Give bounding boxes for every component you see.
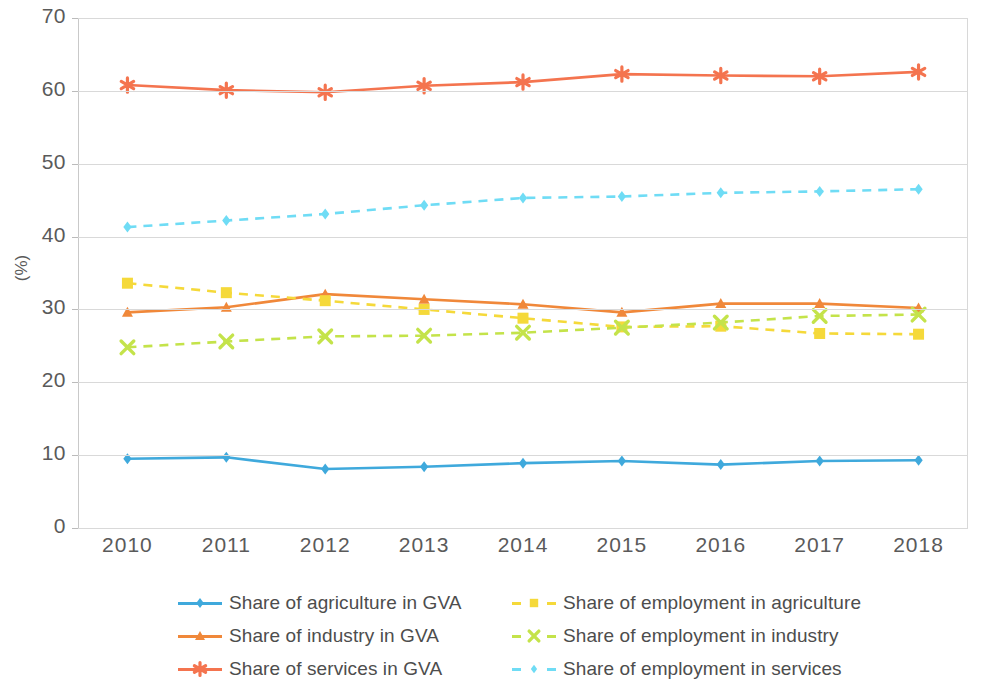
legend-column-left: Share of agriculture in GVAShare of indu… xyxy=(178,586,462,685)
series-2 xyxy=(121,65,924,100)
y-tick-mark xyxy=(72,528,78,529)
legend-column-right: Share of employment in agricultureShare … xyxy=(512,586,861,685)
gridline xyxy=(78,309,968,310)
legend-swatch xyxy=(178,626,222,646)
legend-swatch xyxy=(512,659,556,679)
legend-item[interactable]: Share of industry in GVA xyxy=(178,619,462,652)
legend-marker-icon xyxy=(523,593,545,613)
gridline xyxy=(78,164,968,165)
data-point xyxy=(519,458,527,469)
gridline xyxy=(78,91,968,92)
y-tick-label: 70 xyxy=(18,4,66,28)
legend-swatch xyxy=(512,593,556,613)
data-point xyxy=(221,287,232,298)
data-point xyxy=(814,328,825,339)
x-tick-label: 2015 xyxy=(577,533,667,557)
y-tick-mark xyxy=(72,164,78,165)
y-tick-label: 10 xyxy=(18,441,66,465)
x-tick-label: 2017 xyxy=(775,533,865,557)
gridline xyxy=(78,18,968,19)
y-tick-mark xyxy=(72,382,78,383)
chart-legend: Share of agriculture in GVAShare of indu… xyxy=(0,586,991,691)
legend-label: Share of services in GVA xyxy=(229,658,442,680)
legend-item[interactable]: Share of employment in services xyxy=(512,652,861,685)
legend-item[interactable]: Share of employment in industry xyxy=(512,619,861,652)
data-point xyxy=(518,313,529,324)
y-tick-mark xyxy=(72,309,78,310)
legend-item[interactable]: Share of services in GVA xyxy=(178,652,462,685)
legend-marker-icon xyxy=(189,593,211,613)
legend-item[interactable]: Share of employment in agriculture xyxy=(512,586,861,619)
y-tick-mark xyxy=(72,18,78,19)
data-point xyxy=(618,455,626,466)
data-point xyxy=(816,186,824,197)
legend-dash xyxy=(512,602,521,605)
y-tick-label: 20 xyxy=(18,368,66,392)
data-point xyxy=(420,461,428,472)
plot-area xyxy=(78,18,968,528)
y-tick-label: 0 xyxy=(18,514,66,538)
data-point xyxy=(420,200,428,211)
legend-dash xyxy=(512,668,521,671)
legend-marker-icon xyxy=(189,626,211,646)
data-point xyxy=(321,463,329,474)
y-tick-label: 50 xyxy=(18,150,66,174)
data-point xyxy=(122,278,133,289)
x-tick-label: 2014 xyxy=(478,533,568,557)
x-tick-label: 2018 xyxy=(874,533,964,557)
series-5 xyxy=(123,184,922,233)
x-tick-label: 2011 xyxy=(181,533,271,557)
chart-page: (%) 010203040506070201020112012201320142… xyxy=(0,0,991,691)
gridline xyxy=(78,528,968,529)
data-point xyxy=(914,184,922,195)
y-tick-label: 30 xyxy=(18,295,66,319)
gridline xyxy=(78,455,968,456)
data-point xyxy=(123,222,131,233)
legend-item[interactable]: Share of agriculture in GVA xyxy=(178,586,462,619)
data-point xyxy=(618,191,626,202)
y-tick-mark xyxy=(72,237,78,238)
x-tick-label: 2013 xyxy=(379,533,469,557)
legend-swatch xyxy=(178,593,222,613)
data-point xyxy=(321,208,329,219)
series-layer xyxy=(78,18,968,528)
gridline xyxy=(78,382,968,383)
y-tick-mark xyxy=(72,455,78,456)
x-tick-label: 2010 xyxy=(82,533,172,557)
data-point xyxy=(320,295,331,306)
x-tick-label: 2012 xyxy=(280,533,370,557)
data-point xyxy=(519,192,527,203)
data-point xyxy=(914,455,922,466)
data-point xyxy=(717,187,725,198)
legend-dash xyxy=(512,635,521,638)
line-chart: (%) 010203040506070201020112012201320142… xyxy=(0,0,991,560)
legend-label: Share of industry in GVA xyxy=(229,625,439,647)
legend-dash xyxy=(547,602,556,605)
legend-label: Share of agriculture in GVA xyxy=(229,592,462,614)
data-point xyxy=(222,452,230,463)
legend-dash xyxy=(547,668,556,671)
y-tick-mark xyxy=(72,91,78,92)
y-tick-label: 40 xyxy=(18,223,66,247)
gridline xyxy=(78,237,968,238)
legend-swatch xyxy=(178,659,222,679)
data-point xyxy=(816,455,824,466)
data-point xyxy=(913,329,924,340)
legend-marker-icon xyxy=(189,659,211,679)
legend-label: Share of employment in industry xyxy=(563,625,839,647)
data-point xyxy=(222,215,230,226)
legend-swatch xyxy=(512,626,556,646)
legend-marker-icon xyxy=(523,626,545,646)
legend-marker-icon xyxy=(523,659,545,679)
x-tick-label: 2016 xyxy=(676,533,766,557)
data-point xyxy=(717,459,725,470)
y-tick-label: 60 xyxy=(18,77,66,101)
legend-label: Share of employment in agriculture xyxy=(563,592,861,614)
legend-label: Share of employment in services xyxy=(563,658,842,680)
legend-dash xyxy=(547,635,556,638)
